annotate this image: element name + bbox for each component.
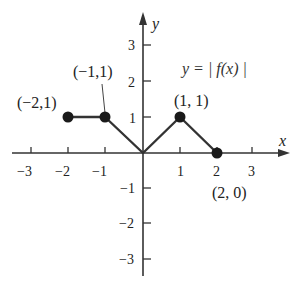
leader-line xyxy=(102,84,105,113)
point-neg1-1 xyxy=(100,112,111,123)
point-2-0 xyxy=(212,148,223,159)
y-tick-label: 1 xyxy=(129,111,136,126)
y-tick-label: 2 xyxy=(128,75,135,90)
x-tick-label: 1 xyxy=(177,164,184,179)
x-tick-label: 2 xyxy=(213,164,220,179)
y-axis-arrow-icon xyxy=(139,12,147,25)
y-tick-label: −1 xyxy=(120,181,135,196)
point-1-1 xyxy=(175,112,186,123)
equation-label: y = | f(x) | xyxy=(180,60,247,78)
y-tick-label: 3 xyxy=(128,38,135,53)
x-axis-arrow-icon xyxy=(278,149,290,157)
x-tick-label: −2 xyxy=(55,164,70,179)
y-tick-label: −2 xyxy=(119,216,134,231)
x-tick-label: −3 xyxy=(17,164,32,179)
point-neg2-1 xyxy=(63,112,74,123)
y-tick-label: −3 xyxy=(119,252,134,267)
point-label: (2, 0) xyxy=(212,184,247,202)
point-label: (−1,1) xyxy=(73,63,113,81)
x-tick-label: 3 xyxy=(248,164,255,179)
point-label: (−2,1) xyxy=(17,94,57,112)
x-tick-label: −1 xyxy=(92,164,107,179)
point-label: (1, 1) xyxy=(174,92,209,110)
graph-abs-f: −3 −2 −1 1 2 3 3 2 1 −1 −2 −3 x y y = | … xyxy=(0,0,303,289)
y-axis-label: y xyxy=(150,15,160,33)
x-axis-label: x xyxy=(278,132,286,149)
